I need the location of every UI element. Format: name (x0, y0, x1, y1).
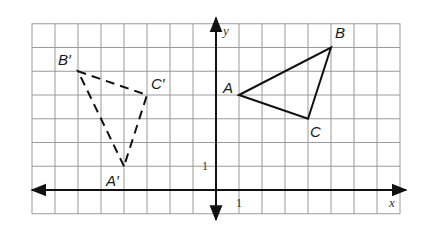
coordinate-plane: ABCA′B′C′yx11 (0, 0, 428, 229)
vertex-label: C′ (151, 75, 166, 92)
y-tick-label: 1 (202, 159, 208, 173)
vertex-label: A (222, 79, 233, 96)
x-axis-label: x (388, 195, 395, 210)
vertex-label: B (335, 24, 345, 41)
vertex-label: B′ (58, 51, 72, 68)
vertex-label: A′ (105, 172, 120, 189)
vertex-label: C (310, 123, 321, 140)
x-tick-label: 1 (236, 196, 242, 210)
y-axis-label: y (221, 23, 229, 38)
